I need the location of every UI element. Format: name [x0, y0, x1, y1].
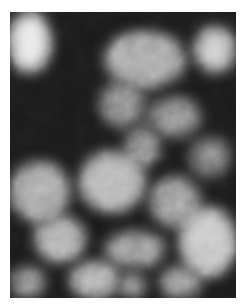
noise-overlay [10, 12, 236, 298]
noise-texture-image [10, 12, 236, 298]
